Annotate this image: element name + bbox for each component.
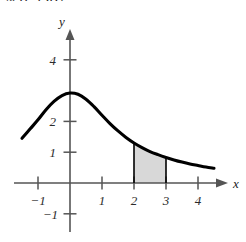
x-axis-arrow	[216, 179, 228, 188]
y-tick-label-4: 4	[50, 53, 57, 68]
y-tick-label--1: −1	[43, 207, 58, 222]
figure-container: ≈ 0.9367 −1 1 2 3	[0, 0, 246, 242]
y-tick-label-1: 1	[50, 145, 57, 160]
x-axis-label: x	[232, 176, 239, 191]
shaded-region	[134, 143, 166, 183]
y-axis-label: y	[57, 14, 65, 29]
x-tick-label-2: 2	[131, 193, 138, 208]
x-tick-label-4: 4	[195, 193, 202, 208]
plot-svg: −1 1 2 3 4 4 2 1 −1 y x	[0, 0, 246, 242]
x-tick-label-1: 1	[99, 193, 106, 208]
y-axis-arrow	[66, 29, 75, 40]
x-tick-label--1: −1	[30, 193, 45, 208]
x-tick-label-3: 3	[162, 193, 170, 208]
y-tick-label-2: 2	[50, 114, 57, 129]
